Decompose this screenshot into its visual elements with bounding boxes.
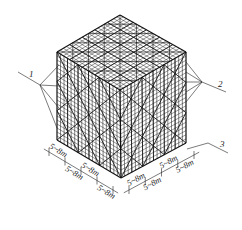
- callout-3-label: 3: [219, 139, 225, 149]
- left-dimension-label: 5~8m: [96, 182, 118, 200]
- left-post: [110, 84, 111, 172]
- right-post: [153, 71, 154, 161]
- callout-2-label: 2: [218, 79, 223, 89]
- left-post: [99, 77, 100, 165]
- scaffold-diagram: 1 2 3 5~8m5~8m5~8m5~8m5~8m5~8m5~8m5~8m: [0, 0, 242, 230]
- edge: [120, 90, 121, 178]
- left-dimension-label: 5~8m: [48, 141, 70, 159]
- right-post: [142, 77, 143, 166]
- callout-1-label: 1: [29, 69, 34, 79]
- left-post: [89, 71, 90, 159]
- callout-1: [18, 65, 59, 128]
